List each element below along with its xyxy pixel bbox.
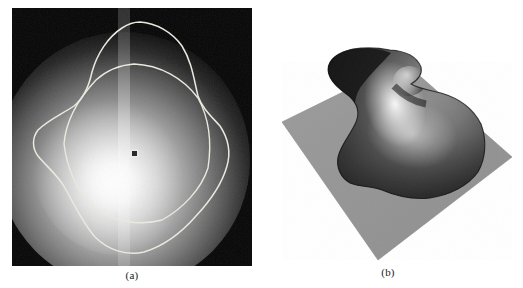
panel-a-svg [12, 8, 252, 266]
figure-root: (a) [0, 0, 523, 288]
panel-b-surface-plot [262, 8, 523, 266]
panel-b-caption: (b) [268, 266, 508, 278]
panel-a-grain [12, 8, 252, 266]
panel-a-image [12, 8, 252, 266]
panel-a-caption: (a) [12, 269, 252, 281]
panel-b-svg [262, 8, 523, 266]
center-marker [131, 150, 139, 158]
